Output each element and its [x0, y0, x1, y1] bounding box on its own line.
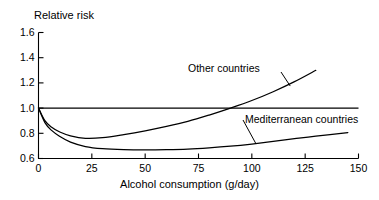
- x-axis-title-wrap: Alcohol consumption (g/day): [0, 178, 379, 191]
- series-label-other-countries: Other countries: [188, 62, 260, 74]
- chart-figure: Relative risk 0.6 0.8 1.0 1.2 1.4 1.6 0 …: [0, 0, 379, 200]
- axis-tick-marks: [39, 33, 359, 159]
- axes-lines: [39, 33, 359, 159]
- x-axis-title: Alcohol consumption (g/day): [120, 178, 259, 191]
- series-curves: [39, 70, 348, 150]
- series-curve-other-countries: [39, 70, 316, 138]
- series-label-mediterranean-countries: Mediterranean countries: [245, 113, 358, 125]
- plot-area: [0, 0, 379, 200]
